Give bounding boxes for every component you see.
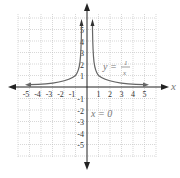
left-branch-arrow-icon [80, 19, 84, 26]
svg-text:-1: -1 [77, 95, 84, 104]
svg-text:1: 1 [80, 72, 84, 81]
svg-text:-5: -5 [23, 90, 30, 99]
svg-text:-1: -1 [69, 90, 76, 99]
function-label-numerator: 1 [124, 59, 128, 67]
curve-left-branch [30, 24, 82, 85]
function-label-denominator: x [122, 69, 127, 77]
right-tail-arrow-icon [143, 83, 149, 88]
svg-text:5: 5 [143, 90, 147, 99]
svg-text:-5: -5 [77, 141, 84, 150]
svg-text:-3: -3 [46, 90, 53, 99]
function-graph: -5 -4 -3 -2 -1 1 2 3 4 5 5 4 3 2 1 -1 -2… [0, 0, 180, 178]
svg-text:4: 4 [131, 90, 135, 99]
function-label-lhs: y = [102, 61, 117, 72]
svg-text:-3: -3 [77, 118, 84, 127]
x-axis-left-arrow-icon [8, 84, 16, 90]
svg-text:-2: -2 [77, 107, 84, 116]
axes [8, 3, 169, 170]
x-axis-label: x [170, 80, 176, 92]
svg-text:2: 2 [108, 90, 112, 99]
asymptote-label: x = 0 [90, 108, 112, 119]
y-axis-down-arrow-icon [84, 162, 90, 170]
svg-text:1: 1 [97, 90, 101, 99]
svg-text:3: 3 [120, 90, 124, 99]
svg-text:-2: -2 [57, 90, 64, 99]
y-axis-up-arrow-icon [84, 3, 90, 11]
left-tail-arrow-icon [25, 83, 31, 88]
x-axis-right-arrow-icon [161, 84, 169, 90]
right-branch-arrow-icon [91, 19, 95, 26]
svg-text:-4: -4 [34, 90, 41, 99]
svg-text:-4: -4 [77, 130, 84, 139]
